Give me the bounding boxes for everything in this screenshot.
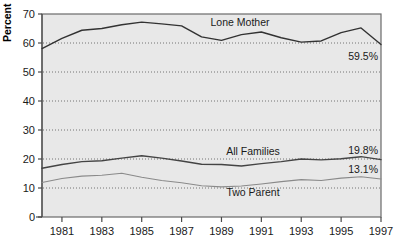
x-tick-label-1989: 1989 [209, 225, 233, 237]
series-label-lone-mother: Lone Mother [211, 16, 270, 28]
x-tick-label-1987: 1987 [169, 225, 193, 237]
end-value-two-parent: 13.1% [348, 163, 378, 175]
x-tick-label-1993: 1993 [289, 225, 313, 237]
y-tick-label-30: 30 [23, 124, 35, 136]
end-value-lone-mother: 59.5% [348, 50, 378, 62]
y-tick-label-40: 40 [23, 95, 35, 107]
series-label-all-families: All Families [226, 145, 280, 157]
x-tick-label-1983: 1983 [90, 225, 114, 237]
x-tick-label-1997: 1997 [369, 225, 393, 237]
y-tick-label-60: 60 [23, 37, 35, 49]
y-tick-label-0: 0 [29, 211, 35, 223]
y-tick-label-70: 70 [23, 8, 35, 20]
x-tick-label-1985: 1985 [129, 225, 153, 237]
line-chart: 010203040506070 198119831985198719891991… [0, 0, 396, 252]
end-value-all-families: 19.8% [348, 144, 378, 156]
y-axis-title: Percent [1, 3, 13, 42]
series-label-two-parent: Two Parent [226, 186, 279, 198]
x-tick-label-1991: 1991 [249, 225, 273, 237]
y-tick-label-10: 10 [23, 182, 35, 194]
x-tick-label-1995: 1995 [329, 225, 353, 237]
y-tick-label-50: 50 [23, 66, 35, 78]
y-tick-label-20: 20 [23, 153, 35, 165]
chart-container: 010203040506070 198119831985198719891991… [0, 0, 396, 252]
x-tick-label-1981: 1981 [50, 225, 74, 237]
